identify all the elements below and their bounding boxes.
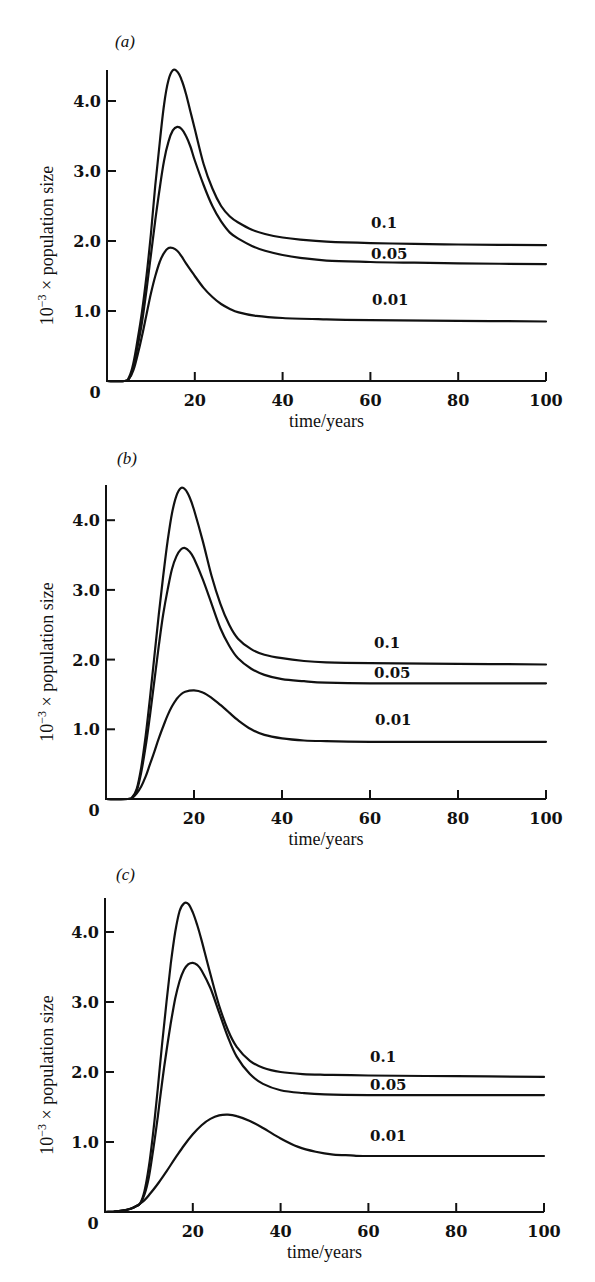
curve-0-01 [106, 690, 546, 799]
curve-label: 0.05 [374, 664, 411, 682]
curve-label: 0.01 [372, 291, 409, 309]
x-tick-label: 40 [269, 1222, 291, 1241]
origin-label: 0 [88, 801, 99, 820]
x-tick-label: 40 [271, 809, 293, 828]
y-tick-label: 3.0 [71, 993, 99, 1012]
x-tick-label: 20 [182, 1222, 204, 1241]
origin-label: 0 [87, 1214, 98, 1233]
panel-label: (c) [116, 865, 135, 884]
y-axis-title: 10−3 × population size [35, 582, 57, 741]
y-axis-title-text: × population size [37, 166, 57, 295]
y-tick-label: 2.0 [73, 232, 101, 251]
panel-label: (a) [115, 32, 135, 51]
y-tick-label: 3.0 [73, 162, 101, 181]
y-axis-title-base: 10 [37, 1137, 57, 1155]
y-axis-title-base: 10 [37, 307, 57, 325]
x-tick-label: 40 [271, 391, 293, 410]
curve-label: 0.01 [370, 1127, 407, 1145]
y-axis-title-base: 10 [37, 724, 57, 742]
y-axis-title: 10−3 × population size [35, 995, 57, 1154]
x-tick-label: 60 [359, 391, 381, 410]
y-tick-label: 4.0 [71, 923, 99, 942]
y-tick-label: 2.0 [72, 651, 100, 670]
x-tick-label: 100 [529, 391, 562, 410]
y-tick-label: 4.0 [73, 92, 101, 111]
y-tick-label: 3.0 [72, 581, 100, 600]
x-tick-label: 60 [357, 1222, 379, 1241]
curve-0-01 [107, 248, 546, 382]
curve-label: 0.1 [374, 634, 400, 652]
curve-0-05 [107, 127, 546, 381]
y-axis-title-exponent: −3 [35, 711, 49, 724]
x-axis-title: time/years [289, 411, 364, 431]
y-tick-label: 1.0 [72, 720, 100, 739]
chart-panel-c: (c)1.02.03.04.0204060801000time/years10−… [35, 865, 561, 1262]
x-tick-label: 80 [447, 391, 469, 410]
x-axis-title: time/years [289, 829, 364, 849]
curve-label: 0.1 [370, 1048, 396, 1066]
y-tick-label: 1.0 [73, 302, 101, 321]
chart-panel-a: (a)1.02.03.04.0204060801000time/years10−… [35, 32, 563, 431]
y-axis-title-text: × population size [37, 582, 57, 711]
y-axis-title: 10−3 × population size [35, 166, 57, 325]
curve-label: 0.05 [370, 1076, 407, 1094]
y-axis-title-exponent: −3 [35, 1124, 49, 1137]
curve-0-1 [107, 70, 546, 382]
x-tick-label: 20 [184, 391, 206, 410]
x-tick-label: 100 [527, 1222, 560, 1241]
y-tick-label: 1.0 [71, 1133, 99, 1152]
x-tick-label: 60 [359, 809, 381, 828]
y-tick-label: 4.0 [72, 511, 100, 530]
x-tick-label: 20 [183, 809, 205, 828]
curve-0-1 [106, 488, 546, 799]
curve-0-05 [106, 548, 546, 799]
x-axis-title: time/years [287, 1242, 362, 1262]
chart-panel-b: (b)1.02.03.04.0204060801000time/years10−… [35, 449, 563, 849]
origin-label: 0 [89, 383, 100, 402]
panel-label: (b) [117, 449, 137, 468]
x-tick-label: 80 [447, 809, 469, 828]
x-tick-label: 80 [445, 1222, 467, 1241]
curve-0-01 [105, 1115, 544, 1212]
figure-canvas: (a)1.02.03.04.0204060801000time/years10−… [0, 0, 595, 1282]
curve-label: 0.1 [371, 214, 397, 232]
curve-label: 0.01 [375, 711, 412, 729]
curve-0-05 [105, 963, 544, 1212]
y-axis-title-text: × population size [37, 995, 57, 1124]
y-tick-label: 2.0 [71, 1063, 99, 1082]
y-axis-title-exponent: −3 [35, 294, 49, 307]
x-tick-label: 100 [529, 809, 562, 828]
curve-label: 0.05 [371, 245, 408, 263]
